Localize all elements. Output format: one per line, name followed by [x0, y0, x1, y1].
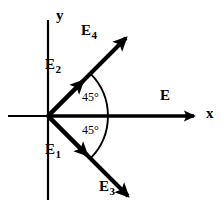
angle-label-bottom: 45°: [82, 124, 99, 136]
vector-label-E4-base: E: [81, 22, 91, 38]
vector-label-E1-base: E: [45, 141, 55, 157]
vector-label-E3: E3: [99, 179, 115, 197]
vector-diagram-figure: y x E2 E4 E1 E3 E 45° 45°: [0, 0, 222, 214]
vector-label-E4: E4: [81, 23, 97, 41]
angle-label-top: 45°: [82, 91, 99, 103]
vector-label-E1-subscript: 1: [55, 148, 61, 160]
vector-label-E2-subscript: 2: [55, 63, 61, 75]
vector-label-E3-base: E: [99, 178, 109, 194]
vector-label-E4-subscript: 4: [91, 29, 97, 41]
vector-label-E1: E1: [45, 142, 61, 160]
vector-E2: [48, 81, 83, 116]
vector-label-E: E: [160, 88, 170, 103]
vector-label-E3-subscript: 3: [109, 185, 115, 197]
x-axis-label: x: [206, 106, 214, 121]
vector-label-E-base: E: [160, 87, 170, 103]
vector-label-E2: E2: [45, 57, 61, 75]
vector-label-E2-base: E: [45, 56, 55, 72]
y-axis-label: y: [56, 8, 64, 23]
